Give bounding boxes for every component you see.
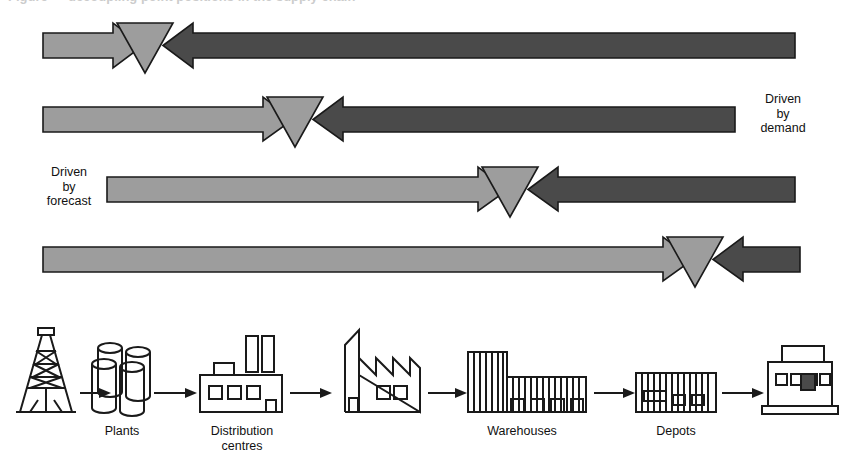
driven-by-demand-label: Driven by demand: [746, 92, 820, 136]
demand-arrow-row-3: [528, 167, 795, 211]
node-label-distribution-centres: Distribution centres: [192, 424, 292, 454]
long-shed-icon: [636, 373, 716, 412]
forecast-arrow-row-2: [43, 97, 293, 141]
forecast-arrow-row-3: [107, 167, 508, 211]
band-row-1: [43, 23, 795, 73]
forecast-arrow-row-4: [43, 237, 693, 281]
node-label-plants: Plants: [82, 424, 162, 439]
retail-store-icon: [762, 346, 838, 414]
band-row-4: [43, 237, 800, 287]
decoupling-band-group: Driven by demand Driven by forecast: [0, 0, 854, 310]
node-label-depots: Depots: [636, 424, 716, 439]
warehouse-block-icon: [468, 352, 586, 412]
chain-svg: [0, 316, 854, 424]
demand-arrow-row-1: [163, 23, 795, 68]
supply-chain-node-row: Plants Distribution centres Warehouses D…: [0, 316, 854, 466]
sawtooth-factory-icon: [345, 330, 420, 412]
band-row-3: [107, 167, 795, 217]
node-label-warehouses: Warehouses: [472, 424, 572, 439]
figure-canvas: Figure — decoupling point positions in t…: [0, 0, 854, 466]
demand-arrow-row-4: [713, 237, 800, 281]
factory-two-chimneys-icon: [200, 336, 282, 412]
oil-derrick-icon: [16, 328, 76, 412]
driven-by-forecast-label: Driven by forecast: [35, 165, 103, 209]
demand-arrow-row-2: [313, 97, 735, 141]
band-row-2: [43, 97, 735, 147]
bands-svg: [0, 0, 854, 310]
chain-connectors: [80, 388, 764, 398]
storage-tanks-icon: [92, 343, 150, 416]
